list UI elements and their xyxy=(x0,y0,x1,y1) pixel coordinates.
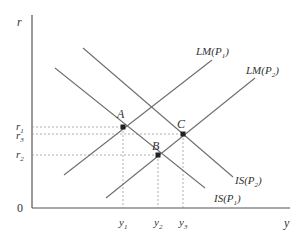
is-p2-label: IS(P2) xyxy=(234,174,262,189)
is-p2-curve xyxy=(83,48,233,177)
is-p1-label: IS(P1) xyxy=(213,192,241,207)
lm-p1-label: LM(P1) xyxy=(195,45,229,60)
y-axis-label: r xyxy=(17,15,22,29)
x-tick-y2: y2 xyxy=(153,216,163,231)
point-a-label: A xyxy=(116,107,125,121)
x-tick-y1: y1 xyxy=(118,216,127,231)
point-c-label: C xyxy=(177,117,186,131)
lm-p2-label: LM(P2) xyxy=(245,64,279,79)
x-axis-label: y xyxy=(283,216,290,230)
y-tick-r2: r2 xyxy=(16,148,24,163)
is-lm-diagram: A B C r y 0 r1 r3 r2 y1 y2 y3 LM(P1) LM(… xyxy=(0,0,299,244)
lm-p1-curve xyxy=(64,60,212,175)
point-c-marker xyxy=(181,132,186,137)
origin-label: 0 xyxy=(17,201,23,215)
point-a-marker xyxy=(121,125,126,130)
x-tick-y3: y3 xyxy=(178,216,188,231)
point-b-marker xyxy=(156,153,161,158)
guide-lines xyxy=(32,127,183,208)
point-b-label: B xyxy=(152,139,160,153)
lm-p2-curve xyxy=(106,78,255,198)
